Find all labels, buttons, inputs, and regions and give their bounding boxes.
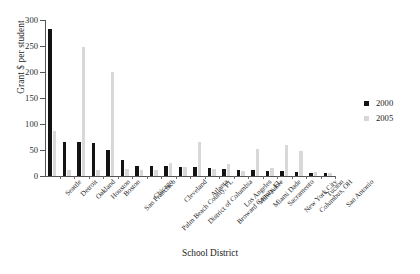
bar-2005 — [67, 170, 70, 176]
bar-group — [208, 20, 216, 176]
bar-group — [164, 20, 172, 176]
chart-legend: 20002005 — [364, 96, 393, 126]
legend-label: 2005 — [376, 114, 393, 123]
bar-2005 — [270, 168, 273, 176]
bar-2000 — [121, 160, 124, 176]
bar-group — [295, 20, 303, 176]
bar-2005 — [314, 172, 317, 176]
bar-2000 — [193, 167, 196, 176]
bar-group — [77, 20, 85, 176]
x-axis-title: School District — [0, 248, 420, 258]
bar-2000 — [222, 169, 225, 176]
bar-group — [48, 20, 56, 176]
legend-swatch-icon — [364, 101, 369, 106]
y-tick-label: 300 — [25, 15, 38, 25]
legend-swatch-icon — [364, 116, 369, 121]
bar-series-container — [45, 20, 335, 176]
y-tick-label: 0 — [34, 171, 38, 181]
bar-2000 — [295, 172, 298, 176]
bar-group — [135, 20, 143, 176]
bar-2005 — [140, 170, 143, 176]
bar-2005 — [328, 173, 331, 176]
bar-2000 — [266, 171, 269, 176]
bar-2005 — [285, 145, 288, 176]
bar-2000 — [164, 166, 167, 176]
bar-2005 — [96, 170, 99, 176]
bar-2005 — [53, 131, 56, 176]
y-tick-label: 150 — [25, 93, 38, 103]
legend-item[interactable]: 2000 — [364, 96, 393, 111]
bar-2005 — [154, 170, 157, 176]
bar-2000 — [150, 166, 153, 176]
bar-2005 — [241, 171, 244, 176]
bar-2000 — [251, 170, 254, 176]
y-tick-label: 250 — [25, 41, 38, 51]
bar-group — [324, 20, 332, 176]
y-tick — [40, 176, 45, 177]
bar-group — [309, 20, 317, 176]
bar-group — [179, 20, 187, 176]
bar-2000 — [92, 143, 95, 176]
bar-2000 — [106, 150, 109, 176]
bar-2005 — [227, 164, 230, 176]
bar-group — [106, 20, 114, 176]
bar-group — [266, 20, 274, 176]
bar-group — [193, 20, 201, 176]
bar-2000 — [280, 171, 283, 176]
x-axis-tick-labels: SeattleDetroitOaklandHoustonBostonSan Fr… — [45, 178, 345, 240]
bar-group — [280, 20, 288, 176]
legend-label: 2000 — [376, 99, 393, 108]
bar-2000 — [179, 167, 182, 176]
bar-2000 — [237, 170, 240, 176]
bar-2005 — [198, 142, 201, 176]
plot-area: 050100150200250300 — [45, 20, 335, 176]
bar-group — [92, 20, 100, 176]
bar-2005 — [212, 169, 215, 176]
bar-2005 — [299, 151, 302, 176]
bar-2000 — [309, 173, 312, 176]
bar-chart: Grant $ per student 050100150200250300 S… — [0, 0, 420, 274]
bar-2000 — [324, 173, 327, 176]
bar-2000 — [48, 29, 51, 176]
bar-2005 — [82, 47, 85, 176]
bar-2005 — [183, 167, 186, 176]
bar-2000 — [63, 142, 66, 176]
bar-group — [237, 20, 245, 176]
y-tick-label: 50 — [29, 145, 38, 155]
bar-group — [150, 20, 158, 176]
bar-2000 — [208, 168, 211, 176]
bar-group — [121, 20, 129, 176]
bar-2005 — [125, 169, 128, 176]
legend-item[interactable]: 2005 — [364, 111, 393, 126]
bar-group — [63, 20, 71, 176]
bar-2000 — [135, 166, 138, 176]
y-tick-label: 100 — [25, 119, 38, 129]
bar-2005 — [111, 72, 114, 176]
bar-2000 — [77, 142, 80, 176]
y-tick-label: 200 — [25, 67, 38, 77]
bar-group — [251, 20, 259, 176]
bar-2005 — [256, 149, 259, 176]
bar-group — [222, 20, 230, 176]
bar-2005 — [169, 163, 172, 176]
